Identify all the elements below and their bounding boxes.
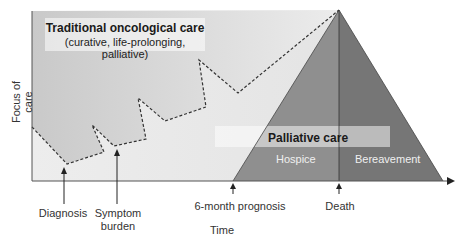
milestone-symptom-burden: burden [101,220,135,232]
x-axis-arrow-icon [447,177,455,185]
death-arrow-icon [336,183,342,194]
milestone-death: Death [325,200,354,212]
traditional-care-label-box: Traditional oncological care (curative, … [45,18,205,51]
bereavement-label: Bereavement [355,153,420,165]
milestone-diagnosis: Diagnosis [39,207,87,219]
milestone-six-month-prognosis: 6-month prognosis [194,200,285,212]
y-axis-label: Focus of care [10,72,34,132]
palliative-care-title: Palliative care [268,131,348,145]
hospice-label: Hospice [276,153,316,165]
traditional-care-subtitle: (curative, life-prolonging, palliative) [45,36,205,60]
six-month-prognosis-arrow-icon [230,183,236,194]
traditional-care-title: Traditional oncological care [45,21,205,35]
milestone-symptom: Symptom [95,207,141,219]
diagnosis-arrow-icon [61,167,67,204]
x-axis-label: Time [210,224,234,236]
